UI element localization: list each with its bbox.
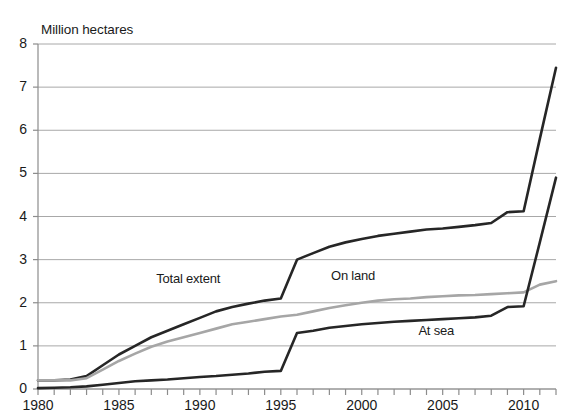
chart-container: Million hectares 012345678 1980198519901… [0,0,567,420]
series-label-at-sea: At sea [418,323,454,338]
y-tick-label: 6 [5,121,27,137]
y-tick-label: 1 [5,337,27,353]
x-tick-label: 1990 [170,397,230,413]
series-label-on-land: On land [331,268,375,283]
y-tick-label: 4 [5,208,27,224]
x-tick-label: 2000 [332,397,392,413]
y-tick-label: 3 [5,251,27,267]
x-tick-label: 1980 [8,397,68,413]
y-tick-label: 7 [5,78,27,94]
y-tick-label: 8 [5,35,27,51]
x-tick-label: 1985 [89,397,149,413]
y-tick-label: 0 [5,380,27,396]
y-tick-label: 2 [5,294,27,310]
x-tick-label: 1995 [251,397,311,413]
chart-plot-area [0,0,567,420]
x-tick-label: 2010 [494,397,554,413]
y-tick-label: 5 [5,164,27,180]
x-tick-label: 2005 [413,397,473,413]
series-label-total-extent: Total extent [156,271,220,286]
series-line-on-land [38,281,556,380]
